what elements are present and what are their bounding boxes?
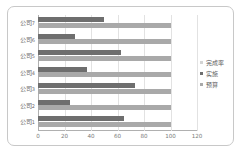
chart-category-row: 公司1 (38, 114, 197, 131)
x-tick-label: 100 (165, 133, 176, 139)
bar-budget (38, 122, 171, 127)
legend-label: 预算 (206, 82, 218, 88)
bar-budget (38, 105, 171, 110)
x-tick-label: 60 (114, 133, 121, 139)
chart-category-row: 公司6 (38, 32, 197, 49)
chart-category-row: 公司5 (38, 48, 197, 65)
legend-swatch-icon (200, 61, 203, 64)
bar-implementation (38, 17, 104, 22)
y-axis-category-label: 公司4 (20, 65, 35, 82)
y-axis-category-label: 公司7 (20, 15, 35, 32)
bar-implementation (38, 50, 121, 55)
legend-item[interactable]: 预算 (200, 79, 240, 90)
bar-implementation (38, 116, 124, 121)
bar-budget (38, 72, 171, 77)
y-axis-category-label: 公司1 (20, 114, 35, 131)
bar-implementation (38, 34, 75, 39)
y-axis-category-label: 公司6 (20, 32, 35, 49)
bar-implementation (38, 83, 135, 88)
bar-budget (38, 39, 171, 44)
legend-label: 实施 (206, 71, 218, 77)
y-axis-category-label: 公司2 (20, 98, 35, 115)
x-tick-label: 0 (36, 133, 40, 139)
chart-category-row: 公司4 (38, 65, 197, 82)
gridline (197, 15, 198, 131)
chart-category-row: 公司3 (38, 81, 197, 98)
x-tick-label: 120 (192, 133, 203, 139)
legend-item[interactable]: 实施 (200, 68, 240, 79)
plot-area: 公司7公司6公司5公司4公司3公司2公司1 (38, 15, 197, 131)
bar-budget (38, 23, 171, 28)
legend-label: 完成率 (206, 60, 224, 66)
x-tick-label: 20 (61, 133, 68, 139)
legend-swatch-icon (200, 83, 203, 86)
bar-implementation (38, 67, 87, 72)
chart-frame: 公司7公司6公司5公司4公司3公司2公司1 020406080100120 完成… (7, 6, 234, 146)
chart-category-row: 公司7 (38, 15, 197, 32)
legend-item[interactable]: 完成率 (200, 57, 240, 68)
chart-category-row: 公司2 (38, 98, 197, 115)
y-axis-category-label: 公司5 (20, 48, 35, 65)
x-tick-label: 40 (87, 133, 94, 139)
bar-budget (38, 89, 171, 94)
chart-legend: 完成率实施预算 (200, 57, 240, 90)
bar-budget (38, 56, 171, 61)
x-axis-tick-labels: 020406080100120 (38, 133, 197, 143)
legend-swatch-icon (200, 72, 203, 75)
bar-implementation (38, 100, 70, 105)
y-axis-category-label: 公司3 (20, 81, 35, 98)
x-tick-label: 80 (140, 133, 147, 139)
